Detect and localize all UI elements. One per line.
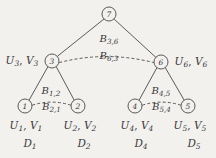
uv4-vsub: 4 xyxy=(149,124,154,133)
data-label-d4: D4 xyxy=(134,138,147,151)
node-label-6: 6 xyxy=(159,58,164,67)
message-label-b45: B4,5 xyxy=(152,86,171,97)
potential-label-uv2: U2, V2 xyxy=(64,120,97,133)
node-label-3: 3 xyxy=(50,57,55,66)
message-label-b21: B2,1 xyxy=(42,102,61,113)
data-label-d5: D5 xyxy=(187,138,200,151)
b45-sub: 4,5 xyxy=(159,89,170,98)
data-label-d1: D1 xyxy=(23,138,36,151)
node-label-4: 4 xyxy=(132,102,138,111)
potential-label-uv3: U3, V3 xyxy=(6,55,39,68)
uv5-vsub: 5 xyxy=(202,124,207,133)
message-label-b54: B5,4 xyxy=(152,102,171,113)
uv2-v: V xyxy=(84,119,92,131)
data-label-d2: D2 xyxy=(77,138,90,151)
node-label-2: 2 xyxy=(75,102,81,111)
node-label-1: 1 xyxy=(23,102,28,111)
node-label-5: 5 xyxy=(186,102,191,111)
uv2-vsub: 2 xyxy=(92,124,97,133)
uv4-u: U xyxy=(121,119,130,131)
tree-diagram-figure: 7 3 6 1 2 4 5 B3,6 B6,3 B1,2 B2,1 B4,5 B… xyxy=(0,0,216,158)
uv5-u: U xyxy=(174,119,183,131)
d2-sub: 2 xyxy=(86,142,91,151)
message-label-b63: B6,3 xyxy=(100,51,119,62)
node-label-7: 7 xyxy=(107,10,112,19)
potential-label-uv1: U1, V1 xyxy=(10,120,43,133)
tree-edge-7-3 xyxy=(58,19,105,56)
potential-label-uv4: U4, V4 xyxy=(121,120,154,133)
uv6-v: V xyxy=(195,55,203,67)
d1-sub: 1 xyxy=(32,142,37,151)
uv6-u: U xyxy=(175,55,184,67)
uv4-v: V xyxy=(141,119,149,131)
uv2-u: U xyxy=(64,119,73,131)
uv3-u: U xyxy=(6,54,15,66)
b54-sub: 5,4 xyxy=(159,105,170,114)
b63-sub: 6,3 xyxy=(107,54,118,63)
b12-sub: 1,2 xyxy=(49,89,60,98)
d5-sub: 5 xyxy=(196,142,201,151)
b36-sub: 3,6 xyxy=(107,37,118,46)
uv3-v: V xyxy=(26,54,34,66)
potential-label-uv5: U5, V5 xyxy=(174,120,207,133)
b21-sub: 2,1 xyxy=(49,105,60,114)
message-label-b12: B1,2 xyxy=(42,86,61,97)
uv1-u: U xyxy=(10,119,19,131)
uv5-v: V xyxy=(194,119,202,131)
potential-label-uv6: U6, V6 xyxy=(175,56,208,69)
uv3-vsub: 3 xyxy=(34,59,39,68)
d4-sub: 4 xyxy=(143,142,148,151)
message-label-b36: B3,6 xyxy=(100,34,119,45)
graph-canvas: 7 3 6 1 2 4 5 xyxy=(0,0,216,158)
uv1-vsub: 1 xyxy=(38,124,43,133)
uv1-v: V xyxy=(30,119,38,131)
uv6-vsub: 6 xyxy=(203,60,208,69)
tree-edge-7-6 xyxy=(114,19,156,57)
